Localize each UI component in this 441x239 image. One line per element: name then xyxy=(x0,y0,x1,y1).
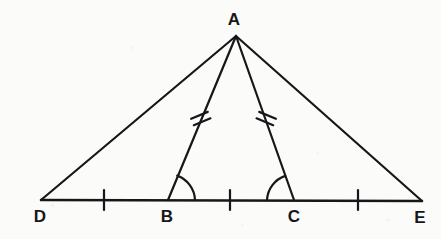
angle-arc-C-icon xyxy=(267,176,285,200)
vertex-label-C: C xyxy=(288,208,300,225)
segment-DA xyxy=(41,36,236,200)
segment-DE xyxy=(41,200,422,201)
angle-arc-B-icon xyxy=(177,176,195,200)
geometry-figure xyxy=(0,0,441,239)
diagram-canvas: A D B C E xyxy=(0,0,441,239)
vertex-label-B: B xyxy=(161,208,173,225)
vertex-label-D: D xyxy=(34,208,46,225)
vertex-label-E: E xyxy=(414,209,425,226)
vertex-label-A: A xyxy=(228,11,240,28)
segment-AE xyxy=(236,36,422,201)
